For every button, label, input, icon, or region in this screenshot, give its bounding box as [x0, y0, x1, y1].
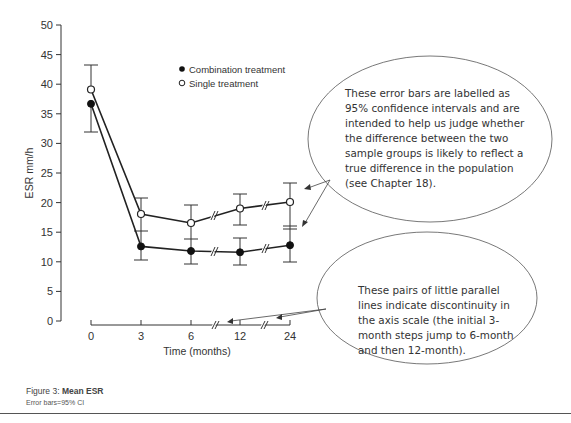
- discontinuity-callout: These pairs of little parallel lines ind…: [227, 232, 537, 364]
- arrow-icon: [304, 184, 311, 190]
- open-circle-icon: [287, 199, 294, 206]
- callout-line: and then 12-month).: [358, 344, 466, 356]
- y-tick-label: 40: [41, 78, 53, 90]
- y-tick-label: 5: [47, 285, 53, 297]
- y-tick-label: 15: [41, 226, 53, 238]
- x-tick-label: 0: [88, 330, 94, 342]
- open-circle-icon: [138, 211, 145, 218]
- callout-line: lines indicate discontinuity in: [358, 299, 510, 311]
- callout-line: month steps jump to 6-month: [358, 329, 514, 341]
- open-circle-icon: [88, 86, 95, 93]
- x-tick-label: 6: [188, 330, 194, 342]
- x-axis: [91, 320, 290, 329]
- callout-line: These pairs of little parallel: [357, 284, 500, 296]
- y-axis-label: ESR mm/h: [23, 147, 35, 198]
- y-tick-labels: 50 45 40 35 30 25 20 15 10 5 0: [41, 19, 53, 327]
- callout-line: These error bars are labelled as: [344, 87, 510, 99]
- callout-line: (see Chapter 18).: [345, 177, 436, 189]
- filled-circle-icon: [237, 249, 244, 256]
- y-tick-label: 10: [41, 256, 53, 268]
- y-tick-label: 25: [41, 167, 53, 179]
- figure-caption: Figure 3: Mean ESR: [26, 386, 103, 396]
- open-circle-icon: [188, 220, 195, 227]
- caption-note: Error bars=95% CI: [26, 399, 84, 406]
- y-tick-label: 45: [41, 49, 53, 61]
- y-tick-label: 50: [41, 19, 53, 31]
- filled-circle-icon: [138, 243, 145, 250]
- callout-line: intended to help us judge whether: [345, 117, 525, 129]
- x-tick-label: 12: [234, 330, 246, 342]
- esr-chart: 50 45 40 35 30 25 20 15 10 5 0 ESR mm/h …: [0, 0, 571, 423]
- callout-line: sample groups is likely to reflect a: [345, 147, 523, 159]
- single-series-line: [91, 90, 290, 224]
- filled-circle-icon: [88, 100, 95, 107]
- filled-circle-icon: [287, 242, 294, 249]
- arrow-icon: [227, 318, 233, 324]
- open-circle-icon: [179, 80, 185, 86]
- y-tick-label: 35: [41, 108, 53, 120]
- x-tick-labels: 0 3 6 12 24: [88, 330, 296, 342]
- legend: Combination treatment Single treatment: [179, 64, 285, 89]
- legend-combination-label: Combination treatment: [189, 64, 285, 75]
- y-axis: [56, 25, 61, 321]
- callout-line: 95% confidence intervals and are: [345, 102, 520, 114]
- filled-circle-icon: [179, 66, 185, 72]
- divider: [0, 413, 571, 414]
- legend-single-label: Single treatment: [189, 78, 259, 89]
- combination-error-bars: [84, 103, 297, 265]
- open-circle-icon: [237, 205, 244, 212]
- callout-line: the difference between the two: [345, 132, 508, 144]
- y-tick-label: 0: [47, 315, 53, 327]
- arrow-icon: [302, 220, 308, 227]
- caption-prefix: Figure 3:: [26, 386, 62, 396]
- x-tick-label: 3: [138, 330, 144, 342]
- filled-circle-icon: [188, 248, 195, 255]
- x-tick-label: 24: [284, 330, 296, 342]
- x-axis-label: Time (months): [163, 345, 230, 357]
- callout-line: true difference in the population: [345, 162, 514, 174]
- callout-line: the axis scale (the initial 3-: [358, 314, 499, 326]
- y-tick-label: 20: [41, 197, 53, 209]
- error-bar-callout: These error bars are labelled as 95% con…: [302, 56, 552, 227]
- caption-title: Mean ESR: [62, 386, 104, 396]
- y-tick-label: 30: [41, 137, 53, 149]
